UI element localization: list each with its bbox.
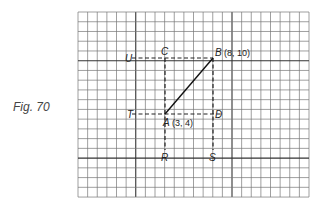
label-B-coords: (8, 10) — [224, 48, 250, 58]
label-S: S — [209, 152, 216, 163]
label-U: U — [125, 53, 133, 64]
label-R: R — [161, 152, 168, 163]
segment-AB — [165, 58, 213, 114]
label-C: C — [161, 46, 169, 57]
label-B: B — [215, 47, 222, 58]
label-D: D — [215, 109, 222, 120]
label-T: T — [127, 109, 134, 120]
label-A-coords: (3, 4) — [172, 118, 193, 128]
graph-paper-grid — [78, 12, 309, 197]
label-A: A — [162, 117, 170, 128]
coordinate-grid-diagram: U C B (8, 10) T A (3, 4) D R S — [0, 0, 327, 205]
